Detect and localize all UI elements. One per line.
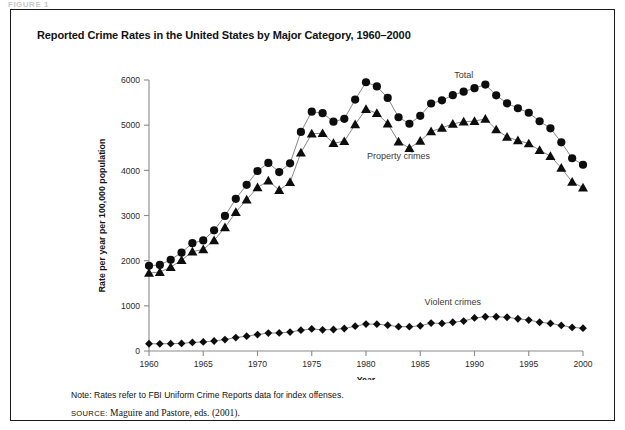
data-point-diamond	[286, 328, 294, 336]
data-point-circle	[199, 236, 207, 244]
data-point-triangle	[253, 183, 263, 192]
data-point-diamond	[471, 314, 479, 322]
y-tick-label: 5000	[121, 120, 140, 130]
data-point-diamond	[232, 334, 240, 342]
y-tick-label: 3000	[121, 211, 140, 221]
data-point-diamond	[189, 339, 197, 347]
data-point-circle	[373, 82, 381, 90]
series-markers-violent-crimes	[145, 313, 587, 348]
data-point-triangle	[177, 255, 187, 264]
data-point-circle	[579, 161, 587, 169]
data-point-diamond	[395, 323, 403, 331]
data-point-triangle	[513, 136, 523, 145]
data-point-diamond	[362, 320, 370, 328]
data-point-circle	[264, 159, 272, 167]
data-point-diamond	[460, 317, 468, 325]
x-tick-label: 1985	[411, 359, 430, 369]
x-tick-label: 1990	[465, 359, 484, 369]
data-point-triangle	[437, 123, 447, 132]
data-point-circle	[221, 212, 229, 220]
data-point-diamond	[221, 336, 229, 344]
data-point-circle	[557, 138, 565, 146]
data-point-circle	[210, 226, 218, 234]
data-point-circle	[243, 181, 251, 189]
data-point-diamond	[438, 320, 446, 328]
data-point-diamond	[340, 325, 348, 333]
data-point-triangle	[524, 139, 534, 148]
data-point-triangle	[459, 117, 469, 126]
data-point-diamond	[384, 321, 392, 329]
data-point-triangle	[318, 128, 328, 137]
data-point-circle	[232, 195, 240, 203]
data-point-diamond	[308, 325, 316, 333]
data-point-diamond	[557, 321, 565, 329]
x-tick-label: 1965	[194, 359, 213, 369]
data-point-circle	[329, 118, 337, 126]
data-point-triangle	[502, 132, 512, 141]
x-tick-label: 1975	[302, 359, 321, 369]
data-point-triangle	[166, 262, 176, 271]
data-point-circle	[340, 115, 348, 123]
data-point-circle	[546, 124, 554, 132]
data-point-circle	[416, 112, 424, 120]
y-tick-label: 0	[135, 346, 140, 356]
data-point-circle	[525, 109, 533, 117]
y-tick-label: 2000	[121, 256, 140, 266]
data-point-triangle	[545, 151, 555, 160]
data-point-diamond	[167, 340, 175, 348]
data-point-diamond	[319, 326, 327, 334]
data-point-diamond	[514, 315, 522, 323]
data-point-circle	[308, 108, 316, 116]
data-point-diamond	[145, 340, 153, 348]
x-tick-label: 1960	[139, 359, 158, 369]
data-point-triangle	[480, 114, 490, 123]
data-point-diamond	[416, 322, 424, 330]
series-annotation-total: Total	[454, 70, 473, 80]
data-point-circle	[449, 91, 457, 99]
data-point-diamond	[536, 318, 544, 326]
data-point-diamond	[254, 331, 262, 339]
x-tick-label: 2000	[573, 359, 592, 369]
figure-frame: Reported Crime Rates in the United State…	[10, 9, 615, 421]
data-point-triangle	[339, 136, 349, 145]
data-point-triangle	[274, 185, 284, 194]
data-point-circle	[253, 167, 261, 175]
data-point-triangle	[578, 183, 588, 192]
data-point-diamond	[427, 319, 435, 327]
data-point-diamond	[199, 338, 207, 346]
data-point-circle	[188, 239, 196, 247]
data-point-diamond	[579, 324, 587, 332]
data-point-circle	[394, 113, 402, 121]
figure-tag: FIGURE 1	[8, 0, 49, 9]
data-point-circle	[481, 81, 489, 89]
data-point-diamond	[210, 337, 218, 345]
data-point-circle	[568, 154, 576, 162]
data-point-diamond	[406, 323, 414, 331]
data-point-circle	[536, 117, 544, 125]
data-point-diamond	[351, 322, 359, 330]
data-point-circle	[351, 96, 359, 104]
x-tick-label: 1995	[519, 359, 538, 369]
source-text: Maguire and Pastore, eds. (2001).	[110, 407, 240, 418]
data-point-circle	[492, 91, 500, 99]
data-point-circle	[362, 78, 370, 86]
x-tick-label: 1980	[356, 359, 375, 369]
y-axis-title: Rate per year per 100,000 population	[97, 139, 107, 293]
data-point-circle	[384, 94, 392, 102]
data-point-triangle	[209, 235, 219, 244]
data-point-triangle	[426, 126, 436, 135]
data-point-diamond	[547, 320, 555, 328]
chart-annotations: TotalProperty crimesViolent crimes	[367, 70, 481, 307]
series-markers-property-crimes	[144, 104, 588, 277]
series-line-property-crimes	[149, 109, 583, 273]
data-point-triangle	[307, 129, 317, 138]
data-point-circle	[275, 168, 283, 176]
data-point-circle	[319, 109, 327, 117]
data-point-triangle	[263, 176, 273, 185]
data-point-diamond	[449, 318, 457, 326]
data-point-triangle	[285, 177, 295, 186]
data-point-triangle	[198, 245, 208, 254]
source-label: SOURCE:	[71, 409, 108, 418]
data-point-circle	[470, 84, 478, 92]
data-point-diamond	[492, 313, 500, 321]
